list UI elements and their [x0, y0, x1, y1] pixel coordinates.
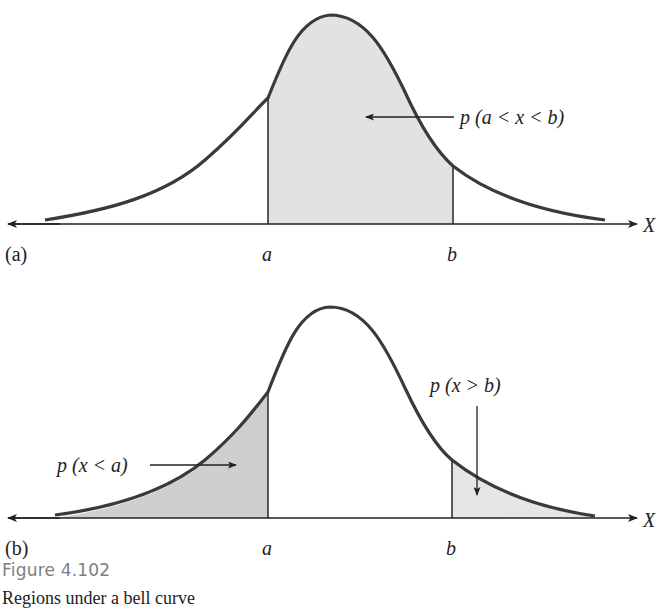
annotation-p-x-lt-a: p (x < a): [55, 454, 128, 477]
panel-tag-b: (b): [5, 537, 28, 560]
figure-caption: Regions under a bell curve: [2, 588, 195, 609]
bound-label-b: b: [447, 243, 457, 265]
panel-a: p (a < x < b) X (a) a b: [5, 15, 656, 266]
axis-label-x: X: [642, 509, 656, 531]
axis-label-x: X: [642, 214, 656, 236]
panel-tag-a: (a): [5, 243, 27, 266]
bound-label-a: a: [262, 243, 272, 265]
bell-curve-figure: p (a < x < b) X (a) a b p (x < a) p (x >…: [0, 0, 664, 560]
bound-label-b: b: [446, 537, 456, 559]
annotation-p-x-gt-b: p (x > b): [428, 374, 501, 397]
bound-label-a: a: [262, 537, 272, 559]
shaded-region-a-to-b: [268, 15, 453, 224]
annotation-p-a-lt-x-lt-b: p (a < x < b): [458, 106, 565, 129]
shaded-region-right-of-b: [452, 460, 595, 518]
bell-curve: [55, 307, 595, 516]
figure-number: Figure 4.102: [2, 560, 110, 580]
panel-b: p (x < a) p (x > b) X (b) a b: [5, 307, 656, 560]
